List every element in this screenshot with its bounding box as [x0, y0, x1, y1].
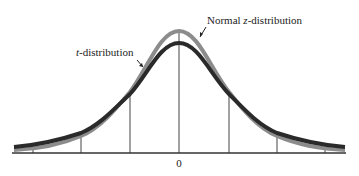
x-axis-label-zero: 0	[176, 157, 182, 169]
t-vs-normal-distribution-diagram: 0 t-distribution Normal z-distribution	[0, 0, 359, 176]
t-distribution-label: t-distribution	[76, 46, 134, 58]
normal-z-distribution-label: Normal z-distribution	[207, 14, 303, 26]
